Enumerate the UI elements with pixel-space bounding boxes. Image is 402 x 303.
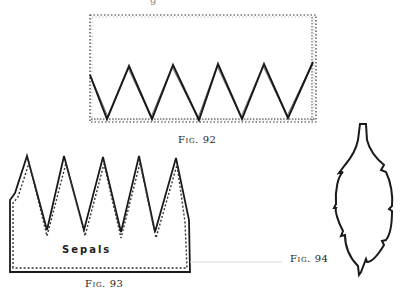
figure-92-drawing [90,15,316,122]
fig93-caption: Fig. 93 [85,278,124,289]
fig92-caption: Fig. 92 [178,134,217,145]
figure-93-drawing [10,156,282,272]
fig94-leaf-outline [334,124,392,275]
cropped-text-fragment: g [150,0,156,5]
figure-94-drawing [334,124,392,275]
sepals-label: Sepals [62,244,111,255]
illustration-canvas [0,0,402,303]
fig94-caption: Fig. 94 [290,253,329,264]
fig92-zigzag [90,62,313,120]
